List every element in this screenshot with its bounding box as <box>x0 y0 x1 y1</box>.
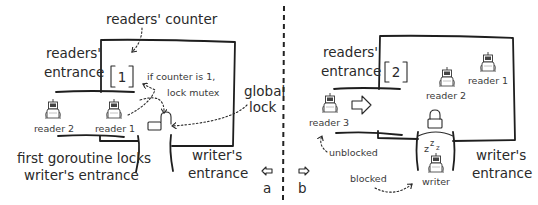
robot-icon <box>45 99 61 118</box>
panel-b-writers-entrance-label-2: entrance <box>472 165 532 181</box>
panel-b-writer-wall-left <box>417 132 419 170</box>
sleep-z-icon: z <box>430 139 434 148</box>
panel-b-reader-2: reader 2 <box>426 67 466 101</box>
panel-b-readers-entrance-label-2: entrance <box>321 63 381 79</box>
robot-icon <box>322 93 338 112</box>
rwmutex-diagram: 1 readers' counter readers' entrance if … <box>0 0 538 205</box>
panel-a: 1 readers' counter readers' entrance if … <box>17 11 285 196</box>
panel-a-readers-corridor-bottom <box>58 135 124 137</box>
robot-icon <box>106 99 122 118</box>
panel-a-note-line-2: lock mutex <box>167 87 220 98</box>
panel-a-readers-corridor-top <box>56 91 134 92</box>
panel-b-reader-1-label: reader 1 <box>468 75 508 86</box>
panel-a-writer-wall-right <box>170 135 173 171</box>
panel-a-reader-1-label: reader 1 <box>95 123 135 134</box>
panel-a-global-lock-arrow <box>172 105 247 126</box>
robot-icon <box>428 153 444 172</box>
panel-a-readers-entrance-label-1: readers' <box>46 45 101 61</box>
panel-b-writer-label: writer <box>422 176 450 187</box>
panel-b-writers-entrance-label-1: writer's <box>476 147 526 163</box>
panel-a-reader-2: reader 2 <box>34 99 74 134</box>
panel-b-label: b <box>298 180 307 196</box>
panel-a-note-to-lock-arrow <box>140 98 164 113</box>
panel-b-reader-1: reader 1 <box>468 52 508 86</box>
panel-a-readers-counter: 1 <box>111 66 133 87</box>
panel-b-locked-padlock-icon <box>428 110 442 128</box>
panel-a-reader-2-label: reader 2 <box>34 123 74 134</box>
panel-b-reader-3-label: reader 3 <box>309 117 349 128</box>
panel-a-readers-counter-label: readers' counter <box>106 11 218 27</box>
panel-b: 2 readers' entrance reader 2 reader 1 re… <box>298 36 532 196</box>
panel-a-caption-line-1: first goroutine locks <box>17 150 151 166</box>
panel-b-enter-arrow-icon <box>352 96 371 114</box>
panel-a-reader-1: reader 1 <box>95 99 135 134</box>
panel-b-writer-arch <box>418 132 453 136</box>
sleep-z-icon: z <box>436 144 440 152</box>
panel-b-blocked-label: blocked <box>350 173 387 184</box>
panel-b-readers-corridor-top <box>334 88 400 89</box>
robot-icon <box>439 67 455 86</box>
panel-b-writer-wall-right <box>453 132 455 170</box>
panel-a-counter-value: 1 <box>118 69 127 85</box>
panel-b-readers-entrance-label-1: readers' <box>323 44 378 60</box>
sleep-z-icon: z <box>424 143 429 154</box>
panel-a-left-arrow-icon[interactable] <box>262 167 272 175</box>
panel-b-reader-2-label: reader 2 <box>426 90 466 101</box>
panel-divider <box>283 6 284 200</box>
panel-b-writer: z z z writer <box>422 139 450 187</box>
panel-a-writers-entrance-label-1: writer's <box>192 147 242 163</box>
panel-b-readers-counter: 2 <box>385 62 407 82</box>
panel-b-counter-value: 2 <box>392 64 401 80</box>
panel-b-right-arrow-icon[interactable] <box>299 167 309 175</box>
panel-a-global-lock-label-1: global <box>244 83 285 99</box>
panel-a-label: a <box>263 180 271 196</box>
panel-a-unlocked-padlock-icon <box>148 112 171 130</box>
panel-a-writers-entrance-label-2: entrance <box>188 165 248 181</box>
panel-b-blocked-arrow <box>375 184 412 192</box>
panel-b-reader-3: reader 3 <box>309 93 349 128</box>
panel-a-global-lock-label-2: lock <box>249 99 276 115</box>
panel-b-unblocked-arrow <box>321 136 327 152</box>
panel-a-caption-line-2: writer's entrance <box>24 167 139 183</box>
panel-a-readers-entrance-label-2: entrance <box>44 64 104 80</box>
panel-b-readers-corridor-bottom <box>336 132 402 135</box>
panel-b-unblocked-label: unblocked <box>329 147 378 158</box>
panel-a-note-line-1: if counter is 1, <box>147 71 215 82</box>
robot-icon <box>480 52 496 71</box>
